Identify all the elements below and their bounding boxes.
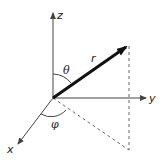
phi-label: φ: [51, 118, 59, 131]
projection-floor-dashed: [53, 98, 129, 150]
r-label: r: [91, 52, 97, 65]
x-axis: [18, 98, 53, 144]
spherical-coordinates-diagram: z y x r θ φ: [0, 0, 165, 161]
theta-label: θ: [63, 64, 70, 77]
y-axis-label: y: [148, 92, 156, 105]
x-axis-label: x: [6, 143, 14, 156]
phi-arc: [41, 110, 66, 117]
z-axis-label: z: [56, 9, 63, 22]
